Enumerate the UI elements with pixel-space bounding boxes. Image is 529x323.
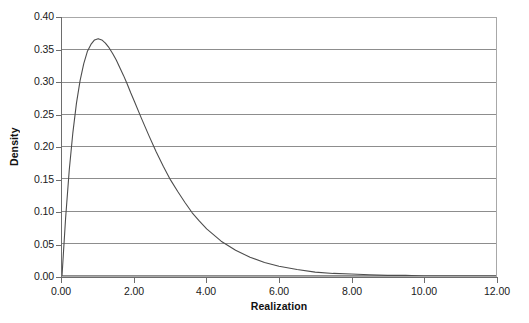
x-tick-mark (206, 278, 207, 283)
density-curve (62, 18, 496, 276)
y-tick-mark (56, 50, 62, 51)
density-chart-figure: 0.000.050.100.150.200.250.300.350.40 0.0… (0, 0, 529, 323)
x-tick-label: 2.00 (104, 285, 164, 297)
y-tick-label: 0.35 (16, 44, 54, 55)
x-tick-label: 6.00 (249, 285, 309, 297)
x-tick-mark (134, 278, 135, 283)
y-tick-mark (56, 147, 62, 148)
y-tick-mark (56, 245, 62, 246)
x-tick-mark (352, 278, 353, 283)
y-tick-mark (56, 180, 62, 181)
y-tick-mark (56, 82, 62, 83)
x-tick-mark (424, 278, 425, 283)
plot-area (61, 17, 497, 277)
x-axis-title: Realization (61, 300, 497, 312)
x-tick-label: 8.00 (322, 285, 382, 297)
y-tick-label: 0.10 (16, 206, 54, 217)
y-tick-label: 0.00 (16, 271, 54, 282)
x-tick-label: 0.00 (31, 285, 91, 297)
y-axis-title: Density (6, 117, 22, 177)
x-tick-label: 10.00 (394, 285, 454, 297)
y-tick-mark (56, 17, 62, 18)
y-tick-label: 0.40 (16, 11, 54, 22)
x-tick-mark (497, 278, 498, 283)
x-tick-mark (61, 278, 62, 283)
y-tick-mark (56, 115, 62, 116)
y-tick-label: 0.05 (16, 239, 54, 250)
x-tick-mark (279, 278, 280, 283)
x-tick-label: 12.00 (467, 285, 527, 297)
x-tick-label: 4.00 (176, 285, 236, 297)
y-tick-mark (56, 212, 62, 213)
y-tick-label: 0.30 (16, 76, 54, 87)
